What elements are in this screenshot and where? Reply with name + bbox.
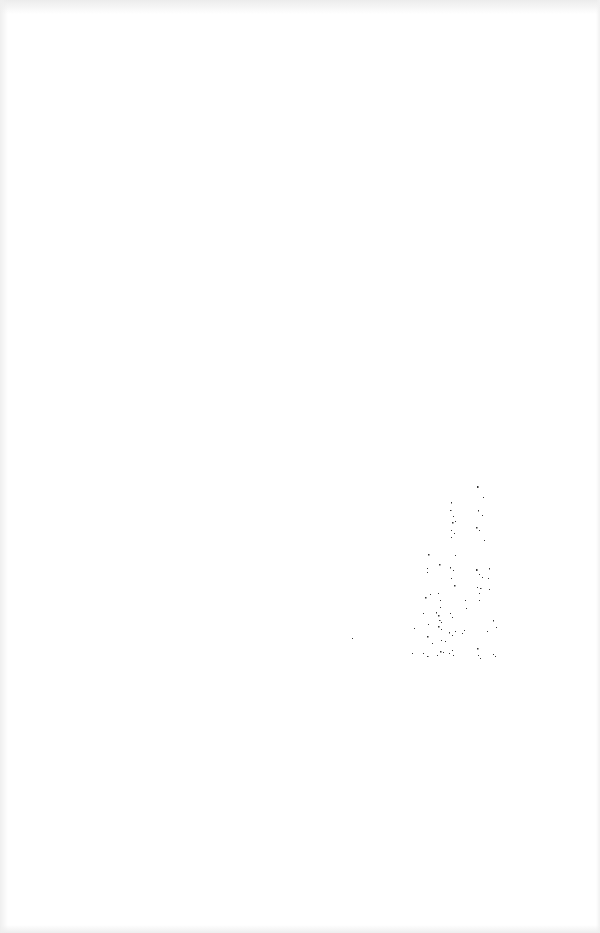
scan-noise-speckles — [0, 0, 600, 933]
blank-scanned-page — [0, 0, 600, 933]
